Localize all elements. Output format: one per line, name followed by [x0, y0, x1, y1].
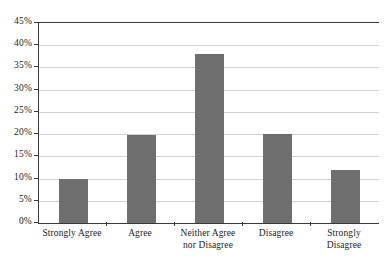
- bar-chart: 0%5%10%15%20%25%30%35%40%45% Strongly Ag…: [0, 0, 391, 261]
- y-axis-tick-label: 20%: [0, 128, 32, 138]
- bar: [127, 135, 156, 223]
- y-axis-tick-label: 30%: [0, 84, 32, 94]
- x-axis-tick-mark: [310, 222, 311, 226]
- x-axis-category-label-line: nor Disagree: [158, 240, 258, 252]
- x-axis-tick-mark: [106, 222, 107, 226]
- x-axis-category-label: StronglyDisagree: [294, 228, 391, 251]
- bar: [263, 134, 292, 223]
- x-axis-category-label-line: Disagree: [294, 240, 391, 252]
- y-axis-tick-label: 10%: [0, 173, 32, 183]
- y-axis-tick-label: 35%: [0, 61, 32, 71]
- bar: [59, 179, 88, 223]
- y-axis-tick-label: 5%: [0, 195, 32, 205]
- y-axis-tick-label: 40%: [0, 39, 32, 49]
- y-axis-tick-label: 15%: [0, 150, 32, 160]
- bar: [331, 170, 360, 223]
- x-axis-category-label-line: Strongly: [294, 228, 391, 240]
- x-axis-tick-mark: [174, 222, 175, 226]
- gridline: [39, 45, 379, 46]
- y-axis-tick-label: 45%: [0, 17, 32, 27]
- y-axis-tick-label: 0%: [0, 217, 32, 227]
- bar: [195, 54, 224, 223]
- y-axis-tick-label: 25%: [0, 106, 32, 116]
- plot-area: [38, 22, 379, 224]
- x-axis-tick-mark: [242, 222, 243, 226]
